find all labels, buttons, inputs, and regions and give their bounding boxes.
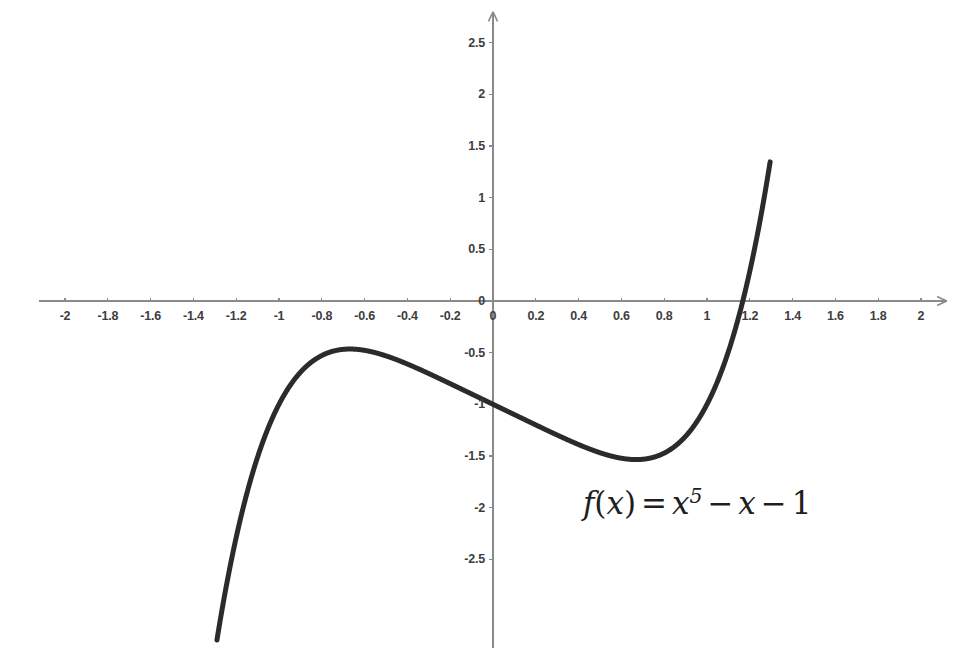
formula-equals: = xyxy=(636,485,672,521)
y-tick-label: 0.5 xyxy=(468,243,485,256)
function-plot-figure: -2-1.8-1.6-1.4-1.2-1-0.8-0.6-0.4-0.200.2… xyxy=(0,0,962,648)
x-tick-label: -1.4 xyxy=(183,310,204,323)
x-tick-label: 2 xyxy=(918,310,925,323)
y-tick-label: 2.5 xyxy=(468,37,485,50)
formula-minus-2: − xyxy=(756,485,792,521)
formula-x-base: x xyxy=(672,485,689,521)
y-tick-label: 1 xyxy=(478,191,485,204)
x-tick-label: 1.4 xyxy=(784,310,801,323)
y-tick-label: -2.5 xyxy=(464,553,485,566)
x-tick-label: 0.4 xyxy=(570,310,587,323)
x-tick-label: -1.2 xyxy=(226,310,247,323)
function-formula-annotation: f(x)=x5−x−1 xyxy=(583,488,812,519)
y-tick-label: -2 xyxy=(474,501,485,514)
y-tick-label: -1.5 xyxy=(464,450,485,463)
y-tick-label: 2 xyxy=(478,88,485,101)
y-tick-label: -1 xyxy=(474,398,485,411)
x-tick-label: 0 xyxy=(490,310,497,323)
x-tick-label: -0.8 xyxy=(311,310,332,323)
x-tick-label: -2 xyxy=(60,310,71,323)
y-tick-label: 0 xyxy=(478,295,485,308)
x-tick-label: -1.8 xyxy=(97,310,118,323)
formula-x-linear: x xyxy=(738,485,755,521)
x-tick-label: -0.6 xyxy=(354,310,375,323)
x-tick-label: 1 xyxy=(704,310,711,323)
x-tick-label: 0.2 xyxy=(527,310,544,323)
y-tick-label: 1.5 xyxy=(468,140,485,153)
x-tick-label: 0.8 xyxy=(656,310,673,323)
x-tick-label: 0.6 xyxy=(613,310,630,323)
formula-constant: 1 xyxy=(792,485,812,521)
x-tick-label: -0.4 xyxy=(397,310,418,323)
formula-minus-1: − xyxy=(702,485,738,521)
formula-exponent: 5 xyxy=(689,483,702,507)
formula-f: f xyxy=(583,485,594,521)
x-tick-label: -1.6 xyxy=(140,310,161,323)
x-tick-label: -0.2 xyxy=(440,310,461,323)
axes-layer xyxy=(39,12,946,648)
x-tick-label: 1.2 xyxy=(741,310,758,323)
x-tick-label: -1 xyxy=(274,310,285,323)
formula-close-paren: ) xyxy=(624,485,636,521)
y-tick-label: -0.5 xyxy=(464,346,485,359)
x-tick-label: 1.6 xyxy=(827,310,844,323)
formula-x-arg: x xyxy=(606,485,623,521)
x-tick-label: 1.8 xyxy=(870,310,887,323)
formula-open-paren: ( xyxy=(594,485,606,521)
